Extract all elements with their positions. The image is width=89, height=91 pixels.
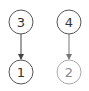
node-3-label: 3 <box>17 15 25 30</box>
graph-canvas: 3 4 1 2 <box>0 0 89 91</box>
node-2-label: 2 <box>65 65 73 80</box>
node-2[interactable]: 2 <box>57 60 81 84</box>
node-3[interactable]: 3 <box>9 10 33 34</box>
node-1[interactable]: 1 <box>9 60 33 84</box>
node-4-label: 4 <box>65 15 73 30</box>
node-4[interactable]: 4 <box>57 10 81 34</box>
node-1-label: 1 <box>17 65 25 80</box>
